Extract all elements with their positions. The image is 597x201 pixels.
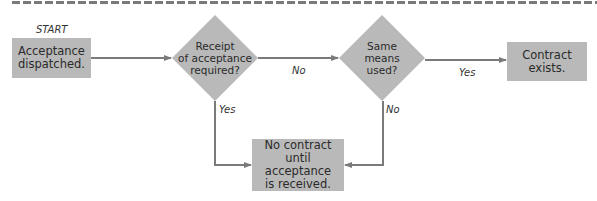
edge-label-same-means-no: No: [386, 104, 400, 115]
node-acceptance-dispatched: Acceptance dispatched.: [12, 38, 91, 78]
node-receipt-required-label: Receipt of acceptance required?: [172, 28, 258, 88]
edge-label-receipt-no: No: [292, 65, 306, 76]
edge-label-same-means-yes: Yes: [459, 67, 475, 78]
node-contract-exists: Contract exists.: [507, 42, 587, 81]
node-same-means-label: Same means used?: [339, 28, 425, 88]
edge-label-receipt-yes: Yes: [219, 104, 235, 115]
arrow-same-means-no-to-no-contract: [345, 101, 383, 165]
start-label: START: [36, 24, 67, 35]
node-no-contract: No contract until acceptance is received…: [252, 139, 344, 191]
